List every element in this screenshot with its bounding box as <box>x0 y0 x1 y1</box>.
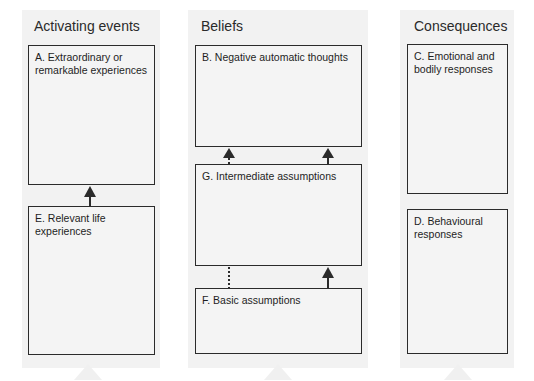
arrow-g-to-b-solid-icon <box>322 148 334 164</box>
arrow-g-to-b-dashed-icon <box>223 148 235 164</box>
connectors <box>0 0 534 381</box>
arrow-e-to-a-icon <box>84 186 96 206</box>
arrow-f-to-g-solid-icon <box>322 267 334 288</box>
